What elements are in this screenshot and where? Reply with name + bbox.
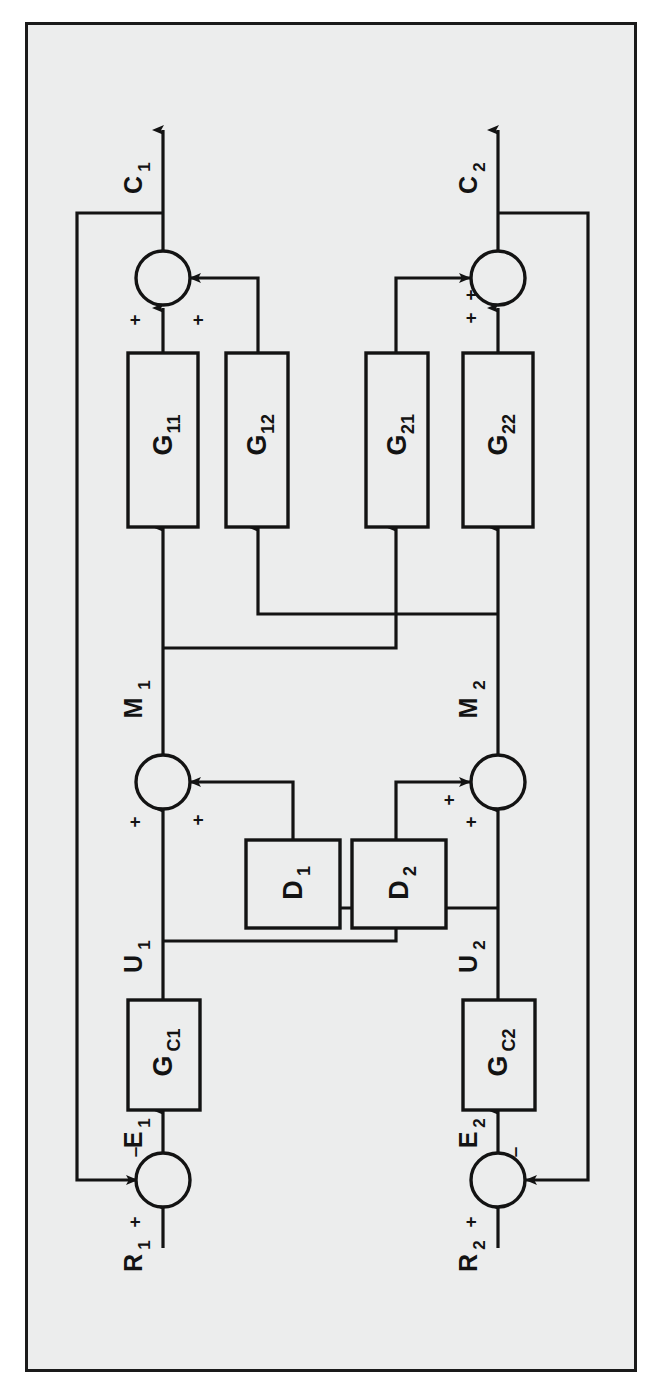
label-m2-group: M 2 bbox=[454, 680, 489, 718]
label-e2: E bbox=[454, 1132, 482, 1149]
label-g22-sub: 22 bbox=[499, 414, 519, 434]
label-g12: G bbox=[242, 434, 272, 455]
summing-junction-e1[interactable] bbox=[136, 1153, 190, 1207]
label-e1: E bbox=[119, 1132, 147, 1149]
label-d1: D bbox=[278, 880, 308, 900]
decoupler-blocks bbox=[246, 840, 446, 928]
label-c1: C bbox=[119, 176, 147, 194]
label-u1-group: U 1 bbox=[119, 940, 154, 973]
wire-g21-to-sum-c2 bbox=[396, 278, 470, 353]
sign-sum-m1-plus-a: + bbox=[124, 816, 145, 827]
sign-sum-c1-plus-a: + bbox=[124, 314, 145, 325]
label-d2-sub: 2 bbox=[400, 866, 420, 876]
label-d2: D bbox=[384, 880, 414, 900]
label-m2-sub: 2 bbox=[470, 680, 489, 689]
controller-blocks bbox=[128, 1000, 535, 1110]
label-u2-sub: 2 bbox=[470, 940, 489, 949]
label-m1-sub: 1 bbox=[135, 680, 154, 689]
label-u2: U bbox=[454, 955, 482, 973]
sign-sum-e1-plus: + bbox=[124, 1216, 145, 1227]
block-gc1[interactable] bbox=[128, 1000, 200, 1110]
wire-m1-to-g21 bbox=[163, 527, 396, 648]
label-g12-sub: 12 bbox=[258, 414, 278, 434]
sign-sum-m2-plus-b: + bbox=[438, 794, 459, 805]
label-r1-sub: 1 bbox=[135, 1240, 154, 1249]
label-gc2-sub: C2 bbox=[499, 1028, 519, 1051]
label-e1-sub: 1 bbox=[135, 1118, 154, 1127]
label-g11: G bbox=[148, 434, 178, 455]
label-c1-sub: 1 bbox=[135, 162, 154, 171]
label-gc1-sub: C1 bbox=[164, 1028, 184, 1051]
summing-junction-m1[interactable] bbox=[136, 755, 190, 809]
label-u2-group: U 2 bbox=[454, 940, 489, 973]
label-r2-group: R 2 bbox=[454, 1240, 489, 1272]
label-r2-sub: 2 bbox=[470, 1240, 489, 1249]
label-g11-sub: 11 bbox=[164, 414, 184, 433]
sign-sum-c1-plus-b: + bbox=[187, 314, 208, 325]
diagram-page: G 11 G 12 G 21 G 22 D 1 D 2 bbox=[0, 0, 659, 1392]
sign-sum-e2-plus: + bbox=[460, 1216, 481, 1227]
label-r2: R bbox=[454, 1254, 482, 1272]
label-u1-sub: 1 bbox=[135, 940, 154, 949]
summing-junction-e2[interactable] bbox=[471, 1153, 525, 1207]
sign-sum-m2-plus-a: + bbox=[460, 816, 481, 827]
label-c2-sub: 2 bbox=[470, 162, 489, 171]
label-g22: G bbox=[483, 434, 513, 455]
wire-d1-to-sum-m1 bbox=[190, 782, 293, 840]
sign-sum-m1-plus-b: + bbox=[187, 814, 208, 825]
wire-d2-to-sum-m2 bbox=[396, 782, 470, 840]
summing-junction-c1[interactable] bbox=[136, 251, 190, 305]
label-g21: G bbox=[382, 434, 412, 455]
sign-sum-c2-plus-a: + bbox=[460, 312, 481, 323]
label-gc2: G bbox=[483, 1055, 513, 1076]
label-c2-group: C 2 bbox=[454, 162, 489, 194]
label-m1: M bbox=[119, 698, 147, 719]
label-d1-sub: 1 bbox=[294, 866, 314, 876]
sign-sum-e1-minus: – bbox=[124, 1147, 145, 1158]
sign-sum-e2-minus: – bbox=[504, 1147, 525, 1158]
block-gc2[interactable] bbox=[463, 1000, 535, 1110]
label-gc1: G bbox=[148, 1055, 178, 1076]
label-c2: C bbox=[454, 176, 482, 194]
process-blocks bbox=[128, 353, 533, 527]
label-m2: M bbox=[454, 698, 482, 719]
wire-m2-to-g12 bbox=[258, 527, 498, 614]
label-e1-group: E 1 bbox=[119, 1118, 154, 1148]
label-g21-sub: 21 bbox=[398, 414, 418, 434]
label-m1-group: M 1 bbox=[119, 680, 154, 718]
block-diagram-canvas: G 11 G 12 G 21 G 22 D 1 D 2 bbox=[0, 0, 659, 1392]
label-r1: R bbox=[119, 1254, 147, 1272]
label-u1: U bbox=[119, 955, 147, 973]
label-e2-sub: 2 bbox=[470, 1118, 489, 1127]
label-c1-group: C 1 bbox=[119, 162, 154, 194]
sign-sum-c2-plus-b: + bbox=[460, 289, 481, 300]
label-e2-group: E 2 bbox=[454, 1118, 489, 1148]
summing-junction-m2[interactable] bbox=[471, 755, 525, 809]
label-r1-group: R 1 bbox=[119, 1240, 154, 1272]
